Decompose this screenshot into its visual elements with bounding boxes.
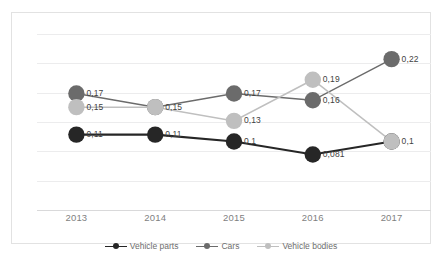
x-axis-tick-2017: 2017 bbox=[381, 212, 403, 223]
data-point-label: 0,15 bbox=[86, 102, 103, 112]
legend-dot bbox=[113, 243, 119, 249]
data-point-marker[interactable] bbox=[226, 113, 242, 129]
legend-item[interactable]: Vehicle parts bbox=[105, 241, 179, 251]
legend-label: Vehicle bodies bbox=[282, 241, 337, 251]
data-point-marker[interactable] bbox=[68, 126, 84, 142]
data-point-marker[interactable] bbox=[383, 133, 399, 149]
x-axis-tick-2016: 2016 bbox=[302, 212, 324, 223]
x-axis-tick-2014: 2014 bbox=[144, 212, 166, 223]
data-point-marker[interactable] bbox=[147, 99, 163, 115]
data-point-label: 0,17 bbox=[244, 88, 261, 98]
x-axis-tick-2015: 2015 bbox=[223, 212, 245, 223]
data-point-label: 0,1 bbox=[402, 136, 414, 146]
data-point-label: 0,11 bbox=[86, 129, 102, 139]
data-point-marker[interactable] bbox=[226, 133, 242, 149]
data-point-label: 0,1 bbox=[244, 136, 256, 146]
legend-marker-icon bbox=[196, 242, 218, 251]
legend-dot bbox=[204, 243, 210, 249]
data-point-label: 0,22 bbox=[402, 54, 419, 64]
data-point-label: 0,081 bbox=[323, 149, 345, 159]
x-axis-labels: 20132014201520162017 bbox=[37, 212, 431, 232]
data-point-label: 0,17 bbox=[86, 88, 103, 98]
x-axis-line bbox=[37, 210, 431, 211]
data-point-marker[interactable] bbox=[68, 99, 84, 115]
chart-legend: Vehicle partsCarsVehicle bodies bbox=[12, 241, 430, 251]
data-point-marker[interactable] bbox=[305, 72, 321, 88]
legend-label: Cars bbox=[221, 241, 239, 251]
chart-plot-frame: 0,110,110,10,0810,170,170,160,220,150,15… bbox=[11, 12, 431, 244]
line-chart: 0,110,110,10,0810,170,170,160,220,150,15… bbox=[0, 0, 442, 262]
data-point-label: 0,13 bbox=[244, 115, 261, 125]
series-layer bbox=[37, 34, 431, 210]
legend-marker-icon bbox=[257, 242, 279, 251]
legend-dot bbox=[265, 243, 271, 249]
data-point-label: 0,11 bbox=[165, 129, 181, 139]
data-point-marker[interactable] bbox=[305, 92, 321, 108]
data-point-marker[interactable] bbox=[147, 126, 163, 142]
legend-marker-icon bbox=[105, 242, 127, 251]
data-point-marker[interactable] bbox=[226, 85, 242, 101]
legend-label: Vehicle parts bbox=[130, 241, 179, 251]
data-point-label: 0,15 bbox=[165, 102, 182, 112]
data-point-marker[interactable] bbox=[383, 51, 399, 67]
legend-item[interactable]: Cars bbox=[196, 241, 239, 251]
data-point-label: 0,16 bbox=[323, 95, 340, 105]
plot-area: 0,110,110,10,0810,170,170,160,220,150,15… bbox=[37, 34, 431, 210]
data-point-marker[interactable] bbox=[305, 146, 321, 162]
data-point-label: 0,19 bbox=[323, 74, 340, 84]
x-axis-tick-2013: 2013 bbox=[65, 212, 87, 223]
legend-item[interactable]: Vehicle bodies bbox=[257, 241, 337, 251]
